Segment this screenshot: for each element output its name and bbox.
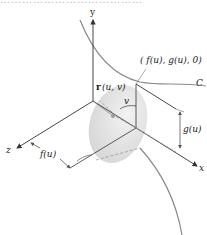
z-axis-label: z xyxy=(6,146,11,155)
f-dimension-label: f(u) xyxy=(40,150,56,159)
x-axis-label: x xyxy=(199,164,204,173)
g-dimension-label: g(u) xyxy=(183,125,202,134)
surface-of-revolution-diagram: ………………………………… xyxy=(0,0,207,235)
r-vector-label: r xyxy=(96,83,101,92)
z-axis xyxy=(17,101,93,148)
curve-c-label: C xyxy=(196,79,203,88)
point-label: ( f(u), g(u), 0) xyxy=(140,56,202,65)
curve-c xyxy=(80,20,206,86)
r-args-label: (u, v) xyxy=(102,83,126,92)
angle-v-label: v xyxy=(124,97,129,106)
curve-c-lower xyxy=(140,148,182,235)
y-axis-label: y xyxy=(90,8,95,17)
diagram-canvas xyxy=(0,0,207,235)
